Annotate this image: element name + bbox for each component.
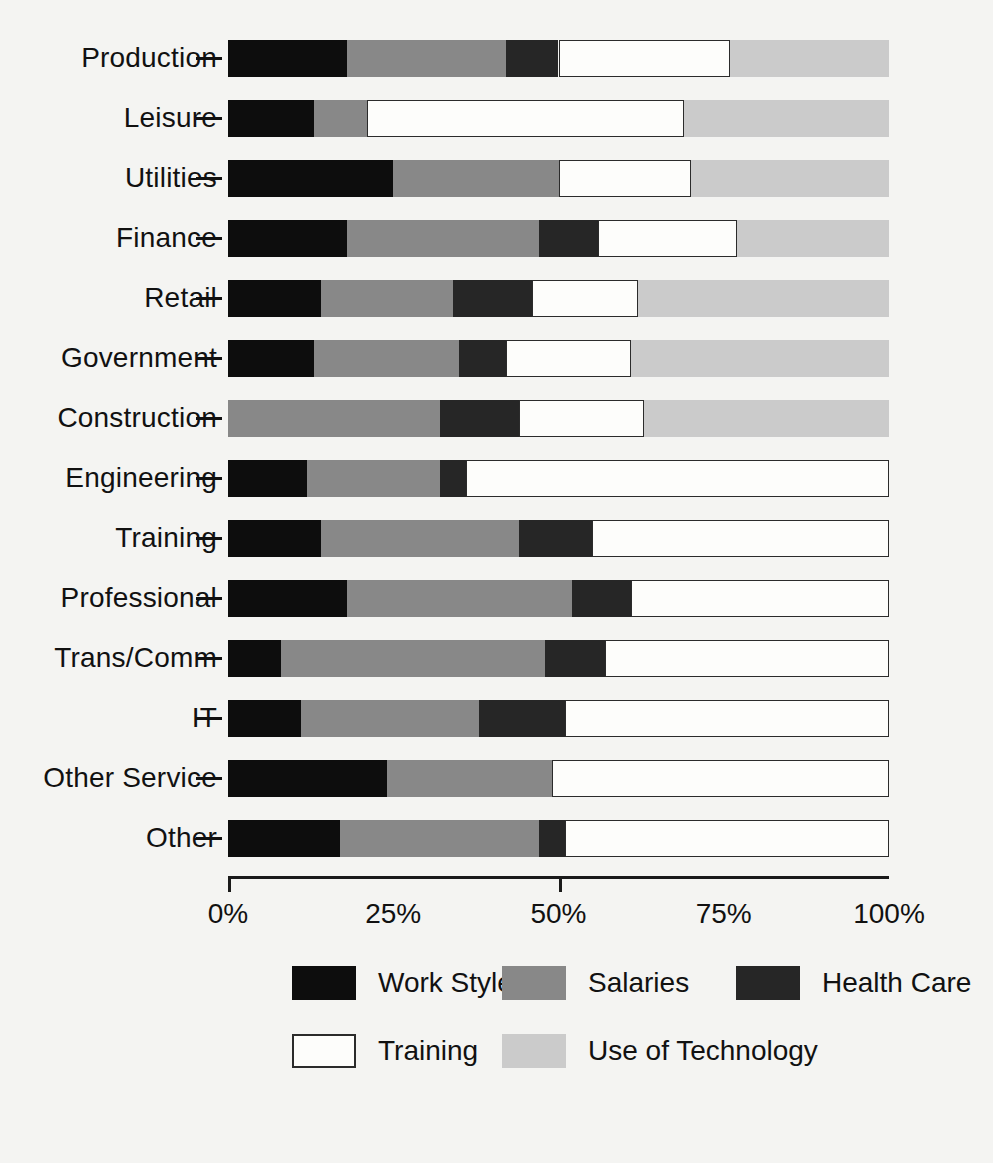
bar-row: Utilities: [0, 156, 993, 200]
category-label: Trans/Comm: [54, 636, 217, 680]
bar-track: [228, 100, 889, 137]
category-tick-dash: [196, 837, 222, 840]
bar-segment: [228, 400, 440, 437]
bar-track: [228, 40, 889, 77]
legend-item[interactable]: Use of Technology: [502, 1023, 818, 1079]
bar-row: Government: [0, 336, 993, 380]
bar-segment: [387, 760, 552, 797]
legend-label: Health Care: [822, 967, 971, 999]
bar-segment: [440, 460, 466, 497]
bar-row: Construction: [0, 396, 993, 440]
bar-segment: [228, 640, 281, 677]
legend-item[interactable]: Training: [292, 1023, 478, 1079]
bar-track: [228, 700, 889, 737]
bar-segment: [466, 460, 889, 497]
bar-row: Leisure: [0, 96, 993, 140]
bar-segment: [638, 280, 889, 317]
bar-row: Retail: [0, 276, 993, 320]
legend-label: Use of Technology: [588, 1035, 818, 1067]
bar-segment: [440, 400, 519, 437]
bar-segment: [314, 100, 367, 137]
legend-swatch-icon: [502, 1034, 566, 1068]
legend-row: TrainingUse of Technology: [0, 1023, 993, 1079]
legend-label: Training: [378, 1035, 478, 1067]
bar-track: [228, 640, 889, 677]
bar-segment: [321, 520, 519, 557]
bar-segment: [691, 160, 889, 197]
bar-row: Other Service: [0, 756, 993, 800]
bar-row: Trans/Comm: [0, 636, 993, 680]
bar-segment: [559, 160, 691, 197]
legend-label: Salaries: [588, 967, 689, 999]
bar-segment: [506, 40, 559, 77]
category-label: Construction: [57, 396, 217, 440]
bar-segment: [737, 220, 889, 257]
bar-segment: [631, 340, 889, 377]
bar-segment: [228, 340, 314, 377]
bar-segment: [559, 40, 731, 77]
bar-segment: [479, 700, 565, 737]
bar-track: [228, 160, 889, 197]
legend-swatch-icon: [736, 966, 800, 1000]
bar-segment: [545, 640, 604, 677]
bar-segment: [307, 460, 439, 497]
bar-segment: [228, 580, 347, 617]
bar-row: Professional: [0, 576, 993, 620]
bar-segment: [519, 520, 592, 557]
category-tick-dash: [196, 57, 222, 60]
bar-segment: [506, 340, 632, 377]
bar-row: Engineering: [0, 456, 993, 500]
category-label: Professional: [61, 576, 217, 620]
bar-segment: [301, 700, 479, 737]
legend-swatch-icon: [292, 1034, 356, 1068]
category-tick-dash: [196, 417, 222, 420]
legend-item[interactable]: Work Styles: [292, 955, 527, 1011]
bar-track: [228, 820, 889, 857]
category-label: Other Service: [43, 756, 217, 800]
x-axis-tick-label: 75%: [696, 898, 752, 930]
bar-row: Finance: [0, 216, 993, 260]
category-tick-dash: [196, 297, 222, 300]
bar-track: [228, 220, 889, 257]
bar-segment: [228, 820, 340, 857]
category-label: Government: [61, 336, 217, 380]
bar-row: Other: [0, 816, 993, 860]
bar-segment: [459, 340, 505, 377]
bar-segment: [347, 580, 572, 617]
bar-segment: [228, 40, 347, 77]
stacked-bar-chart: ProductionLeisureUtilitiesFinanceRetailG…: [0, 0, 993, 1163]
bar-segment: [228, 160, 393, 197]
bar-segment: [281, 640, 545, 677]
bar-segment: [684, 100, 889, 137]
bar-track: [228, 400, 889, 437]
category-tick-dash: [196, 777, 222, 780]
bar-track: [228, 340, 889, 377]
bar-track: [228, 760, 889, 797]
bar-segment: [340, 820, 538, 857]
x-axis-tick-label: 50%: [530, 898, 586, 930]
legend-item[interactable]: Health Care: [736, 955, 971, 1011]
x-axis-tick: [559, 876, 562, 892]
category-tick-dash: [196, 177, 222, 180]
x-axis-tick-label: 0%: [208, 898, 248, 930]
x-axis-tick-label: 25%: [365, 898, 421, 930]
bar-segment: [228, 700, 301, 737]
bar-segment: [347, 40, 506, 77]
category-tick-dash: [196, 477, 222, 480]
bar-segment: [605, 640, 889, 677]
plot-area: ProductionLeisureUtilitiesFinanceRetailG…: [0, 36, 993, 876]
category-label: Engineering: [65, 456, 217, 500]
category-tick-dash: [196, 597, 222, 600]
bar-segment: [228, 100, 314, 137]
bar-row: IT: [0, 696, 993, 740]
bar-segment: [552, 760, 889, 797]
bar-track: [228, 460, 889, 497]
bar-track: [228, 280, 889, 317]
bar-segment: [730, 40, 889, 77]
bar-segment: [631, 580, 889, 617]
legend-item[interactable]: Salaries: [502, 955, 689, 1011]
bar-segment: [393, 160, 558, 197]
bar-segment: [592, 520, 889, 557]
bar-segment: [539, 820, 565, 857]
bar-segment: [228, 760, 387, 797]
